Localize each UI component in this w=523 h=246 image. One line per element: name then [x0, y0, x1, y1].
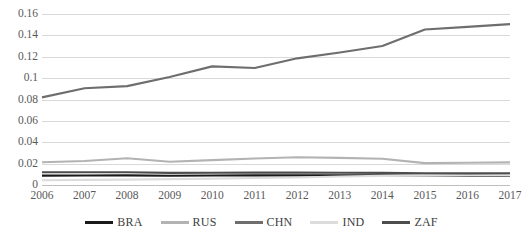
x-axis-tick-label: 2013 [328, 189, 351, 202]
y-axis-tick-label: 0.06 [18, 115, 38, 127]
legend-label-zaf: ZAF [414, 216, 437, 229]
x-axis-tick-label: 2007 [73, 189, 96, 202]
x-axis-tick-label: 2014 [371, 189, 394, 202]
chart-legend: BRARUSCHNINDZAF [0, 212, 523, 232]
x-axis-tick-label: 2017 [499, 189, 522, 202]
series-lines [42, 14, 510, 185]
x-axis-tick-label: 2016 [456, 189, 479, 202]
x-axis-tick-label: 2008 [116, 189, 139, 202]
series-line-chn [42, 24, 510, 97]
legend-swatch-ind [310, 221, 338, 224]
y-axis-tick-label: 0.16 [18, 8, 38, 20]
legend-swatch-zaf [382, 221, 410, 224]
series-line-rus [42, 157, 510, 163]
y-axis-labels: 00.020.040.060.080.10.120.140.16 [0, 14, 38, 185]
legend-swatch-chn [235, 221, 263, 224]
series-line-zaf [42, 172, 510, 173]
x-axis-tick-label: 2011 [243, 189, 266, 202]
legend-swatch-rus [161, 221, 189, 224]
legend-item-bra[interactable]: BRA [85, 216, 142, 229]
legend-item-rus[interactable]: RUS [161, 216, 217, 229]
x-axis-baseline [42, 185, 510, 186]
legend-label-chn: CHN [267, 216, 293, 229]
y-axis-tick-label: 0.1 [24, 72, 38, 84]
legend-item-zaf[interactable]: ZAF [382, 216, 437, 229]
y-axis-tick-label: 0.08 [18, 94, 38, 106]
x-axis-labels: 2006200720082009201020112012201320142015… [42, 189, 510, 205]
legend-label-rus: RUS [193, 216, 217, 229]
legend-label-bra: BRA [117, 216, 142, 229]
line-chart: 00.020.040.060.080.10.120.140.16 2006200… [0, 0, 523, 246]
legend-item-chn[interactable]: CHN [235, 216, 293, 229]
x-axis-tick-label: 2006 [31, 189, 54, 202]
y-axis-tick-label: 0.02 [18, 158, 38, 170]
y-axis-tick-label: 0.04 [18, 137, 38, 149]
legend-label-ind: IND [342, 216, 364, 229]
legend-item-ind[interactable]: IND [310, 216, 364, 229]
x-axis-tick-label: 2010 [201, 189, 224, 202]
x-axis-tick-label: 2009 [158, 189, 181, 202]
legend-swatch-bra [85, 221, 113, 224]
plot-area [42, 14, 510, 185]
x-axis-tick-label: 2015 [413, 189, 436, 202]
y-axis-tick-label: 0.12 [18, 51, 38, 63]
x-axis-tick-label: 2012 [286, 189, 309, 202]
y-axis-tick-label: 0.14 [18, 30, 38, 42]
